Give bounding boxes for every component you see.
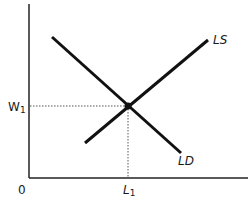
ls-label: LS	[213, 33, 228, 47]
chart-canvas: LS LD W1 L1 0	[0, 0, 249, 199]
equilibrium-point	[125, 103, 132, 110]
w1-label: W1	[8, 100, 26, 115]
origin-label: 0	[18, 183, 26, 197]
l1-label: L1	[123, 183, 135, 198]
labor-market-chart: LS LD W1 L1 0	[0, 0, 249, 199]
labor-supply-line	[85, 40, 208, 143]
labor-demand-line	[52, 37, 181, 153]
ld-label: LD	[178, 154, 194, 168]
